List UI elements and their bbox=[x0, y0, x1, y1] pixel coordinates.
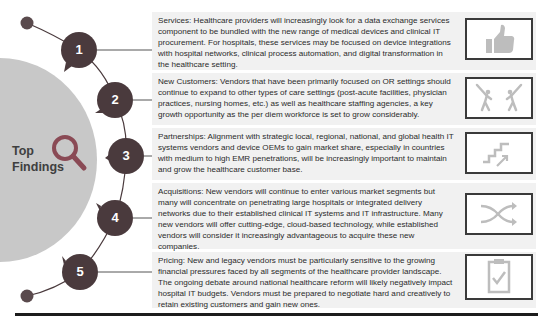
stairs-up-icon bbox=[467, 134, 531, 172]
clipboard-check-icon bbox=[467, 256, 531, 298]
finding-number-1: 1 bbox=[61, 32, 97, 68]
finding-panel-2: New Customers: Vendors that have been pr… bbox=[152, 73, 536, 125]
finding-text-5: Pricing: New and legacy vendors must be … bbox=[158, 256, 454, 311]
finding-number-2: 2 bbox=[97, 82, 133, 118]
thumbs-up-icon bbox=[467, 20, 531, 58]
finding-text-4: Acquisitions: New vendors will continue … bbox=[158, 187, 454, 252]
finding-text-1: Services: Healthcare providers will incr… bbox=[158, 16, 454, 71]
finding-panel-5: Pricing: New and legacy vendors must be … bbox=[152, 252, 536, 308]
golfers-icon bbox=[467, 79, 531, 117]
finding-panel-1: Services: Healthcare providers will incr… bbox=[152, 12, 536, 70]
finding-icon-box-5 bbox=[465, 254, 533, 300]
finding-panel-4: Acquisitions: New vendors will continue … bbox=[152, 183, 536, 249]
shuffle-icon bbox=[467, 195, 531, 233]
hub-title: Top Findings bbox=[12, 143, 64, 175]
finding-icon-box-2 bbox=[465, 77, 533, 119]
finding-text-2: New Customers: Vendors that have been pr… bbox=[158, 77, 454, 121]
hub-title-line2: Findings bbox=[12, 159, 64, 175]
finding-number-5: 5 bbox=[62, 254, 98, 290]
top-findings-diagram: Top Findings 1 2 3 4 5 Services: Healthc… bbox=[0, 0, 554, 324]
hub-title-line1: Top bbox=[12, 143, 64, 159]
finding-number-4: 4 bbox=[97, 200, 133, 236]
finding-icon-box-4 bbox=[465, 193, 533, 235]
finding-panel-3: Partnerships: Alignment with strategic l… bbox=[152, 128, 536, 180]
arc-start-dot bbox=[21, 17, 34, 30]
arc-end-dot bbox=[21, 290, 34, 303]
finding-number-3: 3 bbox=[108, 138, 144, 174]
finding-icon-box-3 bbox=[465, 132, 533, 174]
finding-icon-box-1 bbox=[465, 18, 533, 60]
bottom-rule bbox=[15, 313, 538, 316]
finding-text-3: Partnerships: Alignment with strategic l… bbox=[158, 132, 454, 176]
